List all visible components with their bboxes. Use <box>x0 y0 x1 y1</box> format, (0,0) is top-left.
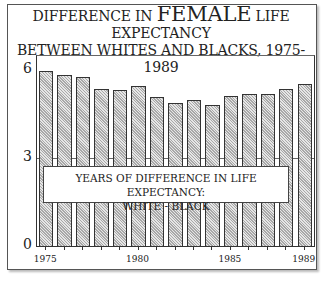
x-tick-label-1989: 1989 <box>292 254 315 264</box>
legend-line2: WHITE - BLACK <box>44 199 288 213</box>
title-line1-pre: DIFFERENCE IN <box>32 8 156 24</box>
x-tick <box>193 246 194 250</box>
x-tick <box>119 246 120 250</box>
x-tick <box>101 246 102 250</box>
bar-1975 <box>39 71 53 247</box>
y-tick-label-0: 0 <box>12 236 32 252</box>
legend-line1: YEARS OF DIFFERENCE IN LIFE EXPECTANCY: <box>44 171 288 199</box>
x-tick <box>175 246 176 250</box>
x-tick <box>211 246 212 250</box>
legend-box: YEARS OF DIFFERENCE IN LIFE EXPECTANCY: … <box>43 166 289 203</box>
x-tick <box>64 246 65 250</box>
x-tick <box>267 246 268 250</box>
bar-1977 <box>76 77 90 247</box>
x-tick <box>285 246 286 250</box>
x-tick <box>138 246 139 250</box>
bar-1989 <box>298 84 312 247</box>
x-tick <box>45 246 46 250</box>
x-tick <box>230 246 231 250</box>
x-tick <box>82 246 83 250</box>
title-line1-emphasis: FEMALE <box>157 2 252 26</box>
x-tick <box>248 246 249 250</box>
plot-area <box>36 55 315 247</box>
x-tick-label-1985: 1985 <box>218 254 241 264</box>
y-tick-label-3: 3 <box>12 148 32 164</box>
x-tick-label-1975: 1975 <box>34 254 57 264</box>
bar-1976 <box>57 75 71 247</box>
x-tick-label-1980: 1980 <box>126 254 149 264</box>
y-tick-label-6: 6 <box>12 60 32 76</box>
x-tick <box>156 246 157 250</box>
x-tick <box>304 246 305 250</box>
